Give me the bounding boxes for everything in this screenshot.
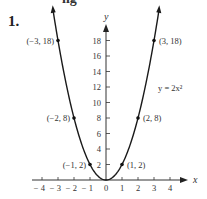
y-tick-label: 6	[97, 129, 101, 139]
curve-right-arrow-icon	[156, 5, 161, 13]
y-tick-label: 14	[93, 67, 102, 77]
data-point	[120, 163, 124, 167]
data-point	[88, 163, 92, 167]
x-tick-label: 1	[120, 183, 124, 193]
data-point	[56, 39, 60, 43]
x-tick-label: − 3	[50, 183, 61, 193]
curve-left-arrow-icon	[51, 5, 56, 13]
data-point	[72, 116, 76, 120]
data-point	[152, 39, 156, 43]
data-point	[136, 116, 140, 120]
point-label: (−1, 2)	[63, 160, 86, 170]
parabola-chart: xy− 4− 3− 2− 10123424681012141618(−3, 18…	[0, 0, 207, 199]
x-axis-arrow-icon	[180, 177, 188, 183]
x-tick-label: − 4	[34, 183, 46, 193]
equation-label: y = 2x²	[158, 83, 183, 93]
y-axis-label: y	[103, 11, 109, 22]
point-label: (3, 18)	[159, 36, 182, 46]
x-tick-label: 3	[152, 183, 156, 193]
x-tick-label: 2	[136, 183, 140, 193]
y-tick-label: 18	[93, 36, 102, 46]
y-tick-label: 8	[97, 113, 101, 123]
y-tick-label: 16	[93, 51, 102, 61]
x-tick-label: 4	[168, 183, 173, 193]
point-label: (1, 2)	[127, 160, 146, 170]
x-axis-label: x	[192, 174, 198, 185]
y-tick-label: 4	[97, 144, 102, 154]
point-label: (−3, 18)	[27, 36, 55, 46]
x-tick-label: − 2	[66, 183, 77, 193]
x-tick-label: − 1	[82, 183, 93, 193]
y-axis-arrow-icon	[103, 24, 109, 32]
y-tick-label: 12	[93, 82, 102, 92]
x-tick-label: 0	[104, 183, 108, 193]
point-label: (−2, 8)	[47, 113, 70, 123]
y-tick-label: 2	[97, 160, 101, 170]
point-label: (2, 8)	[143, 113, 162, 123]
y-tick-label: 10	[93, 98, 102, 108]
